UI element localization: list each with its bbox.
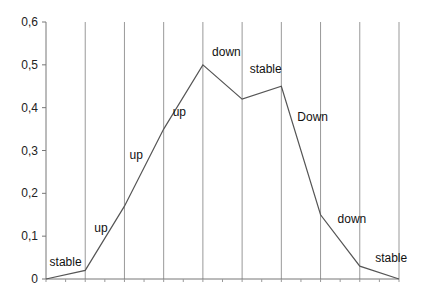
- annotation-label: down: [212, 45, 241, 59]
- y-tick-label: 0: [31, 272, 38, 286]
- annotation-label: up: [130, 148, 144, 162]
- annotation-label: stable: [250, 62, 282, 76]
- annotation-label: up: [94, 221, 108, 235]
- y-tick-label: 0,1: [21, 229, 38, 243]
- y-tick-label: 0,6: [21, 15, 38, 29]
- annotation-label: down: [338, 212, 367, 226]
- y-tick-label: 0,4: [21, 101, 38, 115]
- data-line: [46, 65, 399, 279]
- annotation-label: stable: [375, 251, 407, 265]
- line-chart: 00,10,20,30,40,50,6stableupupupdownstabl…: [0, 0, 421, 299]
- y-tick-label: 0,5: [21, 58, 38, 72]
- y-tick-label: 0,2: [21, 186, 38, 200]
- annotation-label: up: [173, 105, 187, 119]
- y-tick-label: 0,3: [21, 144, 38, 158]
- annotation-label: stable: [50, 255, 82, 269]
- annotation-label: Down: [297, 110, 328, 124]
